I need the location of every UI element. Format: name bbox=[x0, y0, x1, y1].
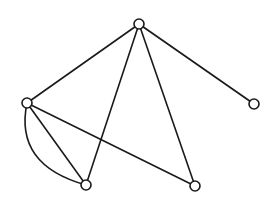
node-right bbox=[249, 99, 259, 109]
node-bottom-right bbox=[190, 181, 200, 191]
edges-group bbox=[25, 24, 254, 186]
nodes-group bbox=[22, 19, 259, 191]
node-left bbox=[22, 98, 32, 108]
graph-diagram bbox=[0, 0, 277, 202]
node-top bbox=[134, 19, 144, 29]
edge-top-right bbox=[139, 24, 254, 104]
edge-top-left bbox=[27, 24, 139, 103]
edge-top-bottom-left bbox=[86, 24, 139, 185]
node-bottom-left bbox=[81, 180, 91, 190]
